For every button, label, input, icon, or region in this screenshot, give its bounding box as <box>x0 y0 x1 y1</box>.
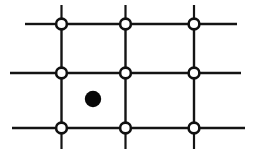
node-r3-c3 <box>189 123 200 134</box>
node-r2-c2 <box>120 68 131 79</box>
lattice-node-group <box>56 19 199 134</box>
node-r1-c3 <box>189 19 200 30</box>
lattice-canvas <box>0 0 260 156</box>
lattice-diagram <box>0 0 260 156</box>
node-r3-c2 <box>120 123 131 134</box>
marker-dot-group <box>85 91 101 107</box>
node-r1-c1 <box>56 19 67 30</box>
node-r2-c3 <box>189 68 200 79</box>
filled-dot <box>85 91 101 107</box>
node-r2-c1 <box>56 68 67 79</box>
node-r3-c1 <box>56 123 67 134</box>
node-r1-c2 <box>120 19 131 30</box>
